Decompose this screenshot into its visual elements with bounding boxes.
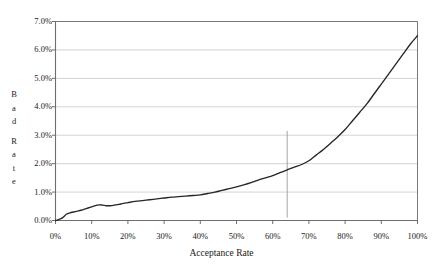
x-axis-tick-label: 90%: [361, 231, 401, 241]
x-axis-tick-label: 10%: [72, 231, 112, 241]
x-axis-tick-label: 50%: [217, 231, 257, 241]
bad-rate-vs-acceptance-rate-chart: B a d R a t e 0.0%1.0%2.0%3.0%4.0%5.0%6.…: [0, 0, 443, 274]
x-axis-tick-label: 30%: [144, 231, 184, 241]
x-axis-tick-label: 20%: [108, 231, 148, 241]
x-axis-tick-label: 80%: [325, 231, 365, 241]
x-axis-tick-labels: 0%10%20%30%40%50%60%70%80%90%100%: [0, 0, 443, 274]
x-axis-tick-label: 40%: [180, 231, 220, 241]
x-axis-title: Acceptance Rate: [0, 247, 443, 259]
x-axis-tick-label: 0%: [36, 231, 76, 241]
x-axis-tick-label: 70%: [289, 231, 329, 241]
x-axis-tick-label: 60%: [253, 231, 293, 241]
x-axis-tick-label: 100%: [398, 231, 438, 241]
